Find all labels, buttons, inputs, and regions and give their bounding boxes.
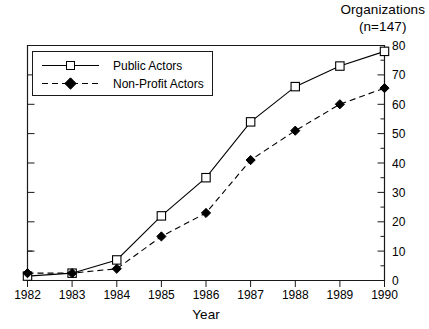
data-point-marker-open-square [202,173,210,181]
y-tick-label-50: 50 [392,127,406,141]
legend-label-non-profit-actors: Non-Profit Actors [113,77,204,91]
data-point-marker-filled-diamond [201,208,210,217]
data-point-marker-filled-diamond [380,83,389,92]
x-axis-title: Year [192,307,220,322]
x-axis-tick-labels: 1982 1983 1984 1985 1986 1987 1988 1989 … [14,288,398,302]
y-tick-label-30: 30 [392,186,406,200]
data-point-marker-filled-diamond [335,100,344,109]
y-axis-tick-labels: 0 10 20 30 40 50 60 70 80 [392,39,406,288]
x-tick-label-1983: 1983 [59,288,86,302]
legend-marker-open-square [67,62,75,70]
data-point-marker-filled-diamond [112,264,121,273]
x-tick-label-1988: 1988 [282,288,309,302]
data-point-marker-open-square [113,256,121,264]
y-tick-label-40: 40 [392,157,406,171]
data-point-marker-filled-diamond [246,155,255,164]
data-point-marker-open-square [157,212,165,220]
y-tick-label-80: 80 [392,39,406,53]
x-tick-label-1982: 1982 [14,288,41,302]
y-tick-label-20: 20 [392,215,406,229]
y-tick-label-60: 60 [392,98,406,112]
x-tick-label-1987: 1987 [237,288,264,302]
x-tick-label-1990: 1990 [371,288,398,302]
axis-right-ticks [378,46,385,281]
y-tick-label-70: 70 [392,68,406,82]
chart-plot: 0 10 20 30 40 50 60 70 80 1982 1983 198 [0,0,429,329]
data-point-marker-open-square [246,118,254,126]
x-tick-label-1984: 1984 [103,288,130,302]
x-tick-label-1985: 1985 [148,288,175,302]
y-tick-label-10: 10 [392,245,406,259]
axis-bottom-ticks [28,281,385,288]
x-tick-label-1986: 1986 [193,288,220,302]
y-tick-label-0: 0 [392,274,399,288]
data-point-marker-filled-diamond [291,126,300,135]
legend-label-public-actors: Public Actors [113,59,182,73]
data-point-marker-open-square [291,82,299,90]
chart-container: Organizations (n=147) [0,0,429,329]
chart-legend: Public Actors Non-Profit Actors [33,52,213,96]
x-tick-label-1989: 1989 [327,288,354,302]
data-point-marker-open-square [336,62,344,70]
data-point-marker-open-square [380,47,388,55]
data-point-marker-filled-diamond [157,232,166,241]
